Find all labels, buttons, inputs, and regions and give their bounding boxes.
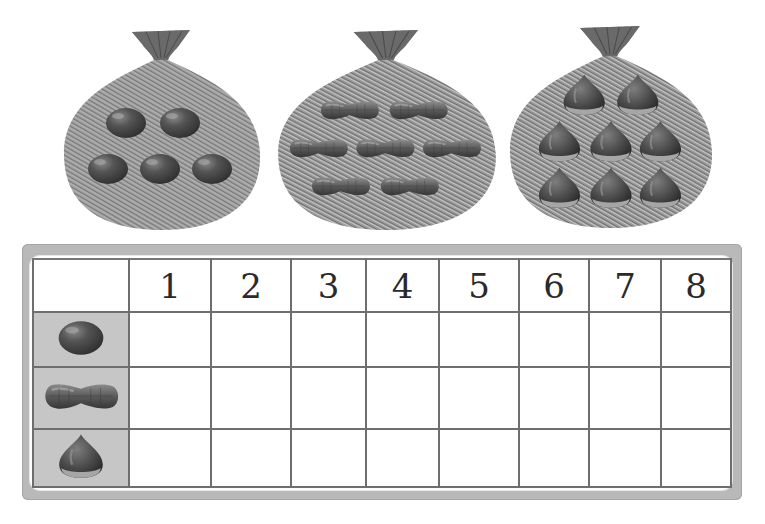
column-header: 8 (661, 259, 731, 312)
column-header: 1 (129, 259, 211, 312)
tally-cell[interactable] (661, 429, 731, 487)
tally-table: 1 2 3 4 5 6 7 8 (32, 258, 732, 488)
tally-cell[interactable] (291, 312, 366, 367)
tally-cell[interactable] (366, 429, 439, 487)
tally-cell[interactable] (661, 367, 731, 429)
tally-cell[interactable] (439, 312, 519, 367)
sack-icon (64, 30, 260, 230)
bean-icon (160, 108, 200, 138)
chestnut-icon (57, 432, 105, 480)
column-number: 7 (614, 266, 636, 306)
tally-cell[interactable] (129, 367, 211, 429)
tally-frame: 1 2 3 4 5 6 7 8 (22, 244, 742, 500)
tally-cell[interactable] (366, 367, 439, 429)
table-row-chestnut (33, 429, 731, 487)
column-number: 8 (685, 266, 707, 306)
bean-icon (192, 154, 232, 184)
bean-icon (56, 319, 106, 357)
tally-cell[interactable] (291, 429, 366, 487)
tally-cell[interactable] (291, 367, 366, 429)
column-number: 4 (392, 266, 414, 306)
peanut-bag (276, 24, 498, 234)
column-header: 6 (519, 259, 589, 312)
row-label-bean (33, 312, 129, 367)
row-label-chestnut (33, 429, 129, 487)
header-row: 1 2 3 4 5 6 7 8 (33, 259, 731, 312)
row-label-peanut (33, 367, 129, 429)
peanut-icon (42, 381, 120, 411)
column-header: 2 (211, 259, 291, 312)
bean-icon (106, 108, 146, 138)
tally-cell[interactable] (519, 312, 589, 367)
tally-cell[interactable] (211, 312, 291, 367)
tally-cell[interactable] (439, 367, 519, 429)
tally-cell[interactable] (439, 429, 519, 487)
table-row-bean (33, 312, 731, 367)
tally-cell[interactable] (589, 312, 661, 367)
column-number: 6 (543, 266, 565, 306)
tally-cell[interactable] (129, 429, 211, 487)
column-number: 1 (159, 266, 181, 306)
tally-cell[interactable] (661, 312, 731, 367)
column-number: 3 (318, 266, 340, 306)
tally-cell[interactable] (589, 429, 661, 487)
column-header: 5 (439, 259, 519, 312)
bean-bag (62, 24, 262, 234)
tally-cell[interactable] (366, 312, 439, 367)
tally-cell[interactable] (519, 429, 589, 487)
bean-icon (88, 154, 128, 184)
bean-icon (140, 154, 180, 184)
tally-cell[interactable] (211, 367, 291, 429)
tally-cell[interactable] (211, 429, 291, 487)
sack-icon (278, 30, 496, 230)
tally-cell[interactable] (589, 367, 661, 429)
tally-cell[interactable] (519, 367, 589, 429)
column-header: 3 (291, 259, 366, 312)
tally-board: 1 2 3 4 5 6 7 8 (30, 256, 732, 490)
column-header: 7 (589, 259, 661, 312)
column-number: 2 (240, 266, 262, 306)
table-row-peanut (33, 367, 731, 429)
column-number: 5 (468, 266, 490, 306)
column-header: 4 (366, 259, 439, 312)
tally-cell[interactable] (129, 312, 211, 367)
chestnut-bag (508, 20, 714, 232)
corner-cell (33, 259, 129, 312)
